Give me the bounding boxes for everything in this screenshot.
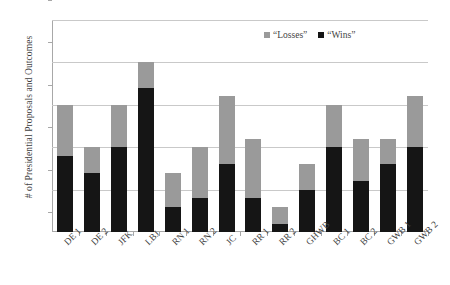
legend-label: “Wins” xyxy=(327,30,355,40)
bar-group xyxy=(57,105,73,232)
bar-segment-wins xyxy=(192,198,208,232)
bar-segment-losses xyxy=(111,105,127,147)
bar-segment-losses xyxy=(326,105,342,147)
bar-segment-losses xyxy=(165,173,181,207)
bar-segment-losses xyxy=(380,139,396,164)
bar-segment-wins xyxy=(245,198,261,232)
y-tick-mark xyxy=(48,85,52,86)
y-axis-title: # of Presidential Proposals and Outcomes xyxy=(24,2,34,232)
plot-area xyxy=(52,20,428,232)
bar-segment-wins xyxy=(138,88,154,232)
bar-segment-losses xyxy=(353,139,369,181)
bar-group xyxy=(245,139,261,232)
bar-group xyxy=(299,164,315,232)
bar-segment-wins xyxy=(407,147,423,232)
bar-segment-wins xyxy=(165,207,181,232)
y-tick-mark xyxy=(48,0,52,1)
bar-segment-losses xyxy=(138,62,154,87)
bar-group xyxy=(407,96,423,232)
bar-segment-losses xyxy=(57,105,73,156)
bar-segment-wins xyxy=(57,156,73,232)
legend-item: “Wins” xyxy=(318,30,355,40)
bar-segment-losses xyxy=(192,147,208,198)
chart-legend: “Losses”“Wins” xyxy=(264,30,355,40)
y-tick-mark xyxy=(48,170,52,171)
y-tick-mark xyxy=(48,212,52,213)
y-tick-mark xyxy=(48,42,52,43)
bar-group xyxy=(353,139,369,232)
bar-group xyxy=(165,173,181,232)
bar-group xyxy=(219,96,235,232)
bar-segment-wins xyxy=(326,147,342,232)
bar-segment-wins xyxy=(84,173,100,232)
bar-group xyxy=(138,62,154,232)
bar-segment-losses xyxy=(219,96,235,164)
bar-group xyxy=(272,207,288,232)
bar-segment-losses xyxy=(272,207,288,224)
x-tick-mark xyxy=(240,232,241,236)
bar-segment-losses xyxy=(299,164,315,189)
bar-segment-wins xyxy=(380,164,396,232)
legend-swatch-icon xyxy=(264,32,270,38)
legend-item: “Losses” xyxy=(264,30,307,40)
bar-group xyxy=(380,139,396,232)
x-tick-label: JC xyxy=(224,233,238,247)
bar-segment-wins xyxy=(353,181,369,232)
bar-group xyxy=(84,147,100,232)
bar-group xyxy=(111,105,127,232)
bar-segment-losses xyxy=(84,147,100,172)
legend-label: “Losses” xyxy=(273,30,307,40)
bar-group xyxy=(326,105,342,232)
legend-swatch-icon xyxy=(318,32,324,38)
bar-segment-wins xyxy=(111,147,127,232)
bar-segment-losses xyxy=(245,139,261,198)
bar-group xyxy=(192,147,208,232)
bar-segment-losses xyxy=(407,96,423,147)
bar-segment-wins xyxy=(219,164,235,232)
y-tick-mark xyxy=(48,127,52,128)
bars-layer xyxy=(52,20,428,232)
bar-chart: # of Presidential Proposals and Outcomes… xyxy=(0,0,450,285)
bar-segment-wins xyxy=(299,190,315,232)
